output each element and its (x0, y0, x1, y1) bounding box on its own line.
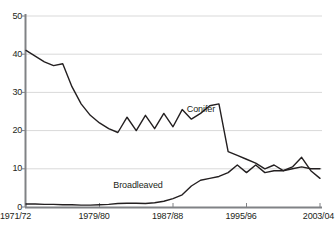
x-axis-tick-label: 1995/96 (226, 212, 257, 221)
y-axis-tick-label: 40 (0, 50, 22, 59)
line-chart: 01020304050 1971/721979/801987/881995/96… (0, 0, 335, 227)
gridlines (26, 16, 322, 169)
series-label-broadleaved: Broadleaved (113, 181, 162, 190)
x-axis-tick-label: 1979/80 (79, 212, 110, 221)
series-label-conifer: Conifer (187, 105, 215, 114)
data-series-lines (26, 50, 320, 205)
x-axis-tick-label: 2003/04 (303, 212, 334, 221)
series-line-conifer (26, 50, 320, 170)
x-axis-tick-label: 1987/88 (152, 212, 183, 221)
y-axis-tick-label: 10 (0, 164, 22, 173)
x-axis-tick-label: 1971/72 (0, 212, 31, 221)
chart-plot-area (0, 0, 335, 227)
y-axis-tick-label: 50 (0, 12, 22, 21)
y-axis-tick-label: 30 (0, 88, 22, 97)
y-axis-tick-label: 20 (0, 126, 22, 135)
series-line-broadleaved (26, 157, 320, 205)
